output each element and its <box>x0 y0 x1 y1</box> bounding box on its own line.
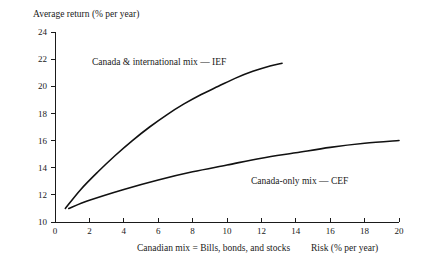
x-tick-label: 18 <box>360 226 370 236</box>
y-tick-label: 16 <box>38 136 48 146</box>
x-tick-label: 14 <box>291 226 301 236</box>
x-tick-label: 0 <box>53 226 58 236</box>
ief-series-label: Canada & international mix — IEF <box>92 57 226 67</box>
x-axis-title-left: Canadian mix = Bills, bonds, and stocks <box>137 243 290 253</box>
y-tick-label: 14 <box>38 163 48 173</box>
x-tick-label: 6 <box>156 226 161 236</box>
x-tick-label: 10 <box>223 226 233 236</box>
x-axis-title-right: Risk (% per year) <box>311 243 378 254</box>
cef-series-label: Canada-only mix — CEF <box>251 176 348 186</box>
y-tick-label: 20 <box>38 81 48 91</box>
y-axis-title: Average return (% per year) <box>33 9 139 20</box>
x-tick-label: 4 <box>122 226 127 236</box>
x-tick-label: 8 <box>190 226 195 236</box>
y-tick-label: 12 <box>38 190 47 200</box>
y-tick-label: 22 <box>38 54 47 64</box>
y-tick-label: 10 <box>38 217 48 227</box>
chart-page: Average return (% per year) 101214161820… <box>0 0 426 266</box>
y-tick-label: 24 <box>38 27 48 37</box>
x-tick-label: 2 <box>87 226 92 236</box>
average-return-vs-risk-chart: Average return (% per year) 101214161820… <box>0 0 426 266</box>
x-tick-label: 16 <box>326 226 336 236</box>
y-tick-label: 18 <box>38 109 48 119</box>
x-tick-label: 12 <box>257 226 266 236</box>
x-tick-label: 20 <box>395 226 405 236</box>
